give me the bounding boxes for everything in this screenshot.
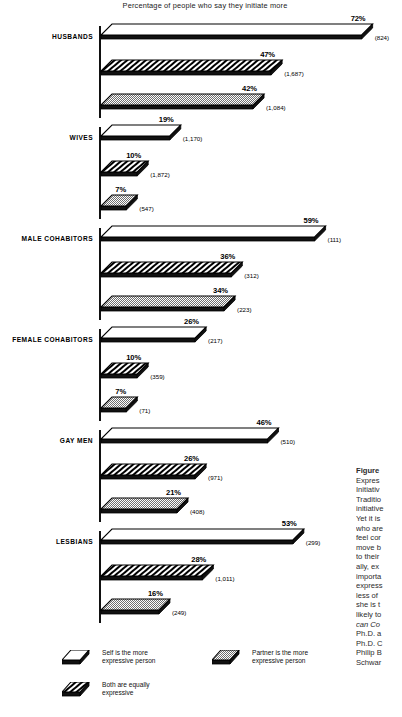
bar-percent-label: 34% xyxy=(213,286,228,295)
legend-swatch-icon xyxy=(62,682,96,702)
legend-label: Both are equally expressive xyxy=(102,681,150,698)
bar-sample-size-label: (1,170) xyxy=(183,135,203,142)
bar-gay-men-series-1 xyxy=(101,428,282,446)
bar-wives-series-2 xyxy=(101,161,151,179)
caption-line: importa xyxy=(356,572,402,582)
caption-line: Expres xyxy=(356,476,402,486)
bar-sample-size-label: (249) xyxy=(172,609,186,616)
bar-female-cohabitors-series-2 xyxy=(101,363,151,381)
caption-line: she is t xyxy=(356,600,402,610)
bar-sample-size-label: (299) xyxy=(306,539,320,546)
category-label-female-cohabitors: FEMALE COHABITORS xyxy=(12,336,93,343)
legend-label: Self is the more expressive person xyxy=(102,649,156,666)
bar-percent-label: 16% xyxy=(148,589,163,598)
caption-line: less of xyxy=(356,591,402,601)
caption-line: feel cor xyxy=(356,533,402,543)
category-label-male-cohabitors: MALE COHABITORS xyxy=(22,235,93,242)
legend-swatch-icon xyxy=(212,650,246,670)
bar-sample-size-label: (312) xyxy=(244,272,258,279)
chart-legend: Self is the more expressive person Partn… xyxy=(0,648,402,717)
category-label-wives: WIVES xyxy=(70,134,94,141)
caption-line: Philip B xyxy=(356,648,402,658)
caption-line: move b xyxy=(356,543,402,553)
caption-line: express xyxy=(356,581,402,591)
bar-percent-label: 19% xyxy=(159,115,174,124)
bar-sample-size-label: (1,011) xyxy=(215,575,234,582)
category-label-husbands: HUSBANDS xyxy=(52,33,93,40)
bar-female-cohabitors-series-1 xyxy=(101,327,209,345)
caption-line: can Co xyxy=(356,620,402,630)
bar-wives-series-3 xyxy=(101,195,140,213)
bar-sample-size-label: (1,872) xyxy=(150,171,170,178)
legend-item-2: Partner is the more expressive person xyxy=(212,650,352,674)
bar-sample-size-label: (71) xyxy=(139,407,150,414)
category-label-gay-men: GAY MEN xyxy=(60,437,93,444)
legend-item-1: Self is the more expressive person xyxy=(62,650,202,674)
bar-percent-label: 26% xyxy=(184,317,199,326)
bar-male-cohabitors-series-3 xyxy=(101,296,238,314)
bar-group: MALE COHABITORS 59%(111) 36%(312) xyxy=(0,226,402,326)
bar-sample-size-label: (217) xyxy=(208,337,222,344)
caption-line: who are xyxy=(356,524,402,534)
bar-sample-size-label: (971) xyxy=(208,474,222,481)
bar-percent-label: 7% xyxy=(115,387,126,396)
bar-wives-series-1 xyxy=(101,125,184,143)
bar-female-cohabitors-series-3 xyxy=(101,397,140,415)
bar-sample-size-label: (510) xyxy=(281,438,295,445)
bar-sample-size-label: (359) xyxy=(150,373,164,380)
bar-gay-men-series-2 xyxy=(101,464,209,482)
bar-male-cohabitors-series-1 xyxy=(101,226,329,244)
bar-percent-label: 21% xyxy=(166,488,181,497)
caption-line: Traditio xyxy=(356,495,402,505)
bar-lesbians-series-3 xyxy=(101,599,173,617)
bar-sample-size-label: (223) xyxy=(237,306,251,313)
caption-line: Initiativ xyxy=(356,485,402,495)
bar-percent-label: 36% xyxy=(220,252,235,261)
legend-swatch-icon xyxy=(62,650,96,670)
bar-group: FEMALE COHABITORS 26%(217) 10%(359) xyxy=(0,327,402,427)
bar-group: WIVES 19%(1,170) 10%(1,872) xyxy=(0,125,402,225)
legend-item-3: Both are equally expressive xyxy=(62,682,202,706)
bar-percent-label: 59% xyxy=(304,216,319,225)
bar-percent-label: 72% xyxy=(351,14,366,23)
bar-gay-men-series-3 xyxy=(101,498,191,516)
caption-heading: Figure xyxy=(356,466,402,476)
caption-line: ally, ex xyxy=(356,562,402,572)
bar-husbands-series-2 xyxy=(101,60,285,78)
bar-sample-size-label: (111) xyxy=(328,236,342,243)
figure-caption: FigureExpresInitiativTraditioinitiativeY… xyxy=(356,466,402,716)
bar-group: LESBIANS 53%(299) 28%(1,011) xyxy=(0,529,402,629)
expressiveness-initiative-figure: Percentage of people who say they initia… xyxy=(0,0,402,717)
bar-lesbians-series-2 xyxy=(101,565,216,583)
bar-sample-size-label: (1,687) xyxy=(284,70,304,77)
bar-percent-label: 53% xyxy=(282,519,297,528)
bar-group: GAY MEN 46%(510) 26%(971) xyxy=(0,428,402,528)
bar-husbands-series-3 xyxy=(101,94,267,112)
bar-percent-label: 47% xyxy=(260,50,275,59)
bar-percent-label: 46% xyxy=(257,418,272,427)
bar-male-cohabitors-series-2 xyxy=(101,262,245,280)
bar-sample-size-label: (408) xyxy=(190,508,204,515)
bar-percent-label: 28% xyxy=(191,555,206,564)
bar-sample-size-label: (547) xyxy=(139,205,153,212)
caption-line: Ph.D. C xyxy=(356,639,402,649)
chart-title: Percentage of people who say they initia… xyxy=(85,1,325,10)
caption-line: to their xyxy=(356,552,402,562)
bar-percent-label: 42% xyxy=(242,84,257,93)
bar-husbands-series-1 xyxy=(101,24,376,42)
bar-percent-label: 7% xyxy=(115,185,126,194)
bar-lesbians-series-1 xyxy=(101,529,307,547)
bar-group: HUSBANDS 72%(824) 47%(1,687) xyxy=(0,24,402,124)
caption-line: initiative xyxy=(356,504,402,514)
bar-percent-label: 26% xyxy=(184,454,199,463)
caption-line: Yet it is xyxy=(356,514,402,524)
bar-percent-label: 10% xyxy=(126,151,141,160)
bar-sample-size-label: (1,084) xyxy=(266,104,286,111)
caption-line: likely to xyxy=(356,610,402,620)
bar-sample-size-label: (824) xyxy=(375,34,389,41)
caption-line: Schwar xyxy=(356,658,402,668)
legend-label: Partner is the more expressive person xyxy=(252,649,308,666)
plot-area: HUSBANDS 72%(824) 47%(1,687) xyxy=(0,14,402,644)
category-label-lesbians: LESBIANS xyxy=(56,538,93,545)
bar-percent-label: 10% xyxy=(126,353,141,362)
